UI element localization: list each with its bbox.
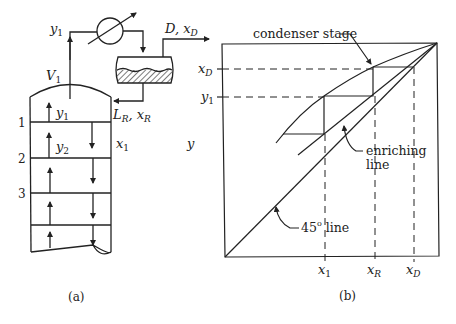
panel-a-labels: y1 V1 D, xD LR, xR y1 y2 x1 1 2 3 (a) — [18, 21, 198, 304]
label-D-xD: D, xD — [164, 21, 198, 38]
condenser-icon — [97, 18, 123, 44]
annotation-line: line — [366, 157, 389, 172]
stage-2-step — [283, 96, 324, 134]
condenser-to-drum-line — [123, 31, 143, 52]
y-tick-y1: y1 — [200, 89, 214, 106]
distillate-line — [163, 39, 209, 57]
equilibrium-curve — [276, 43, 437, 143]
annotation-45-line: 45o line — [301, 219, 349, 235]
y-tick-xD: xD — [198, 61, 213, 78]
label-V1: V1 — [46, 68, 61, 85]
x-tick-xR: xR — [367, 262, 381, 279]
column-break — [31, 245, 111, 254]
line-45-leader — [276, 207, 299, 228]
drum-liquid-hatch — [117, 70, 172, 83]
column-left-wall — [30, 97, 31, 252]
plate-number-2: 2 — [18, 152, 26, 166]
enriching-line-leader — [344, 126, 363, 151]
label-y1-inside: y1 — [55, 105, 69, 122]
annotation-enriching: enriching — [366, 143, 427, 158]
panel-a-column — [30, 13, 209, 254]
x-tick-x1: x1 — [318, 262, 331, 279]
label-y2: y2 — [55, 139, 69, 156]
label-y1-top: y1 — [49, 21, 63, 38]
label-x1: x1 — [116, 136, 129, 153]
plate-number-1: 1 — [18, 116, 26, 130]
y-axis-label: y — [186, 136, 195, 151]
caption-b: (b) — [339, 289, 356, 303]
distillation-diagram: y1 V1 D, xD LR, xR y1 y2 x1 1 2 3 (a) — [0, 0, 456, 324]
plate-number-3: 3 — [18, 187, 26, 201]
reflux-line — [114, 83, 143, 101]
label-LR-xR: LR, xR — [112, 107, 151, 124]
annotation-condenser-stage: condenser stage — [253, 26, 357, 41]
x-tick-xD: xD — [406, 262, 421, 279]
caption-a: (a) — [68, 290, 85, 304]
